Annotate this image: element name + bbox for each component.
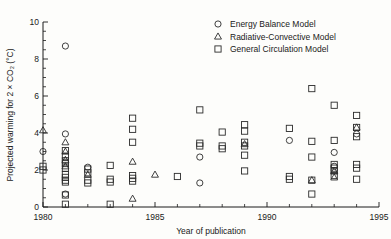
data-point-square xyxy=(242,128,248,134)
data-point-triangle xyxy=(152,171,159,177)
y-axis-tick-label: 2 xyxy=(34,165,39,175)
data-point-circle xyxy=(197,180,203,186)
legend-item-circle: Energy Balance Model xyxy=(215,19,316,29)
data-point-square xyxy=(62,179,68,185)
y-axis-title: Projected warming for 2 × CO₂ (°C) xyxy=(5,48,15,181)
data-point-square xyxy=(174,173,180,179)
y-axis-tick-label: 8 xyxy=(34,54,39,64)
x-axis-tick-label: 1980 xyxy=(34,212,53,222)
data-point-square xyxy=(354,165,360,171)
data-point-square xyxy=(219,129,225,135)
y-axis-tick-label: 4 xyxy=(34,128,39,138)
data-point-square xyxy=(354,176,360,182)
data-point-triangle xyxy=(215,33,222,39)
legend-item-label: Radiative-Convective Model xyxy=(230,32,336,42)
y-axis-tick-labels: 0246810 xyxy=(30,17,40,212)
data-point-triangle xyxy=(129,195,136,201)
data-point-square xyxy=(331,102,337,108)
data-point-square xyxy=(197,107,203,113)
data-point-layer xyxy=(40,43,361,207)
data-point-square xyxy=(130,139,136,145)
scatter-plot: 0246810 1980198519901995 Projected warmi… xyxy=(0,0,391,239)
data-point-square xyxy=(309,86,315,92)
data-point-square xyxy=(309,138,315,144)
legend-item-square: General Circulation Model xyxy=(215,44,328,54)
y-axis-ticks xyxy=(43,22,48,207)
data-point-square xyxy=(331,137,337,143)
legend-item-label: Energy Balance Model xyxy=(230,19,316,29)
data-point-square xyxy=(286,125,292,131)
data-point-circle xyxy=(331,149,337,155)
y-axis-tick-label: 6 xyxy=(34,91,39,101)
data-point-circle xyxy=(62,43,68,49)
data-point-square xyxy=(242,168,248,174)
legend-item-label: General Circulation Model xyxy=(230,44,328,54)
data-point-triangle xyxy=(62,139,69,145)
data-point-square xyxy=(130,126,136,132)
data-point-triangle xyxy=(353,124,360,130)
y-axis-tick-label: 10 xyxy=(30,17,40,27)
legend-item-triangle: Radiative-Convective Model xyxy=(215,32,336,42)
data-point-square xyxy=(309,191,315,197)
data-point-circle xyxy=(331,163,337,169)
chart-figure: 0246810 1980198519901995 Projected warmi… xyxy=(0,0,391,239)
x-axis-ticks xyxy=(43,202,379,207)
x-axis-tick-label: 1985 xyxy=(146,212,165,222)
x-axis-title: Year of publication xyxy=(176,226,246,236)
data-point-circle xyxy=(62,131,68,137)
series-circle xyxy=(40,43,360,197)
data-point-triangle xyxy=(129,158,136,164)
data-point-circle xyxy=(286,137,292,143)
data-point-square xyxy=(354,161,360,167)
data-point-square xyxy=(309,154,315,160)
series-square xyxy=(40,86,360,208)
axes xyxy=(43,22,379,207)
data-point-square xyxy=(130,115,136,121)
x-axis-tick-labels: 1980198519901995 xyxy=(34,212,389,222)
data-point-square xyxy=(354,112,360,118)
data-point-square xyxy=(242,122,248,128)
x-axis-tick-label: 1995 xyxy=(370,212,389,222)
series-triangle xyxy=(40,124,361,201)
chart-legend: Energy Balance ModelRadiative-Convective… xyxy=(215,19,336,54)
x-axis-tick-label: 1990 xyxy=(258,212,277,222)
data-point-square xyxy=(215,46,221,52)
data-point-square xyxy=(107,162,113,168)
y-axis-tick-label: 0 xyxy=(34,202,39,212)
data-point-circle xyxy=(215,21,221,27)
data-point-circle xyxy=(197,154,203,160)
data-point-square xyxy=(242,152,248,158)
